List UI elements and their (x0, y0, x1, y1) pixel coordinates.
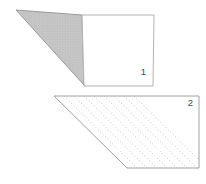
piece-2-label: 2 (188, 97, 193, 108)
piece-1-shaded-triangle (16, 10, 84, 85)
worksheet-diagram: 1 2 (0, 0, 206, 184)
piece-2-outline (54, 96, 199, 168)
diagram-canvas: 1 2 (0, 0, 206, 184)
piece-2: 2 (54, 96, 206, 168)
piece-1-label: 1 (141, 66, 146, 77)
piece-1: 1 (16, 10, 154, 86)
